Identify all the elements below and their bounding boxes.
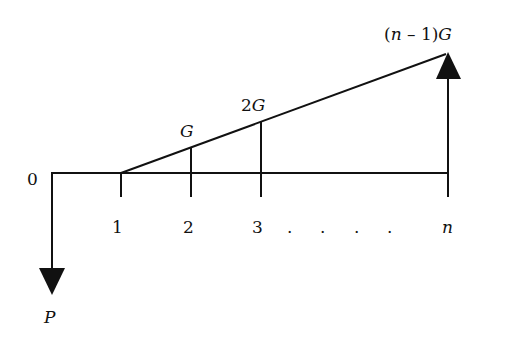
- var-n: n: [391, 24, 402, 44]
- label-gradient-n-minus-1-g: (n – 1)G: [384, 24, 452, 44]
- ellipsis-dot-3: .: [354, 217, 359, 237]
- label-present-value: P: [43, 307, 56, 327]
- cash-flow-diagram: 0 1 2 3 . . . . n G 2G (n – 1)G P: [0, 0, 514, 338]
- label-origin: 0: [27, 169, 38, 189]
- var-g: G: [438, 24, 452, 44]
- ellipsis-dot-1: .: [287, 217, 292, 237]
- ellipsis-dot-2: .: [320, 217, 325, 237]
- label-period-n: n: [442, 217, 453, 237]
- var-g: G: [252, 95, 266, 115]
- label-gradient-2g: 2G: [241, 95, 265, 115]
- minus-one: – 1): [402, 24, 439, 44]
- label-period-1: 1: [112, 217, 123, 237]
- paren-open: (: [384, 24, 391, 44]
- gradient-slope-line: [121, 54, 446, 173]
- label-period-3: 3: [252, 217, 263, 237]
- coef-2: 2: [241, 95, 252, 115]
- ellipsis-dot-4: .: [387, 217, 392, 237]
- label-gradient-g: G: [180, 121, 194, 141]
- down-arrowhead-icon: [39, 268, 65, 295]
- label-period-2: 2: [183, 217, 194, 237]
